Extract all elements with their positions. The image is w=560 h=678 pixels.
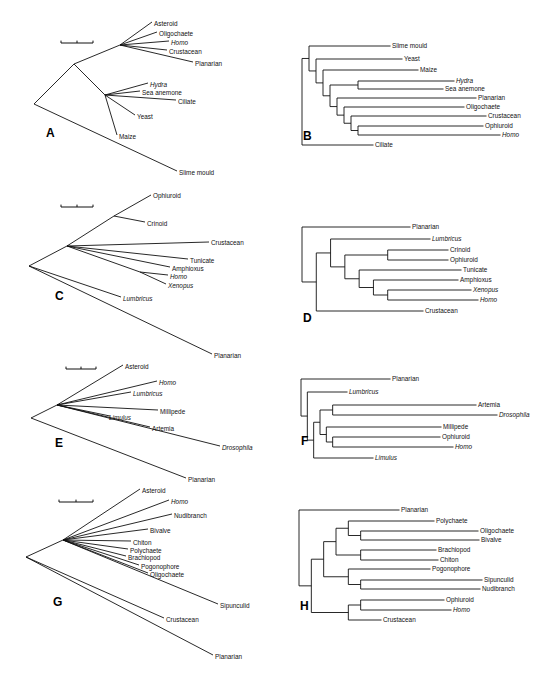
taxon-label: Yeast — [404, 55, 420, 62]
tree-branch — [63, 540, 126, 556]
tree-branch — [67, 246, 170, 267]
taxon-label: Homo — [480, 296, 497, 303]
tree-branch — [67, 216, 114, 246]
taxon-label: Millipede — [443, 423, 469, 431]
taxon-label: Amphioxus — [460, 276, 492, 284]
taxon-label: Millipede — [160, 408, 186, 416]
taxon-label: Artemia — [152, 425, 174, 432]
panel-c: OphiuroidCrinoidCrustaceanTunicateAmphio… — [0, 180, 280, 360]
taxon-label: Oligochaete — [480, 527, 515, 535]
panel-letter: B — [303, 129, 312, 143]
taxon-label: Lumbricus — [123, 295, 153, 302]
taxon-label: Crustacean — [383, 616, 416, 623]
taxon-label: Lumbricus — [349, 388, 379, 395]
taxon-label: Homo — [171, 39, 188, 46]
taxon-label: Planarian — [392, 375, 419, 382]
taxon-label: Chiton — [440, 556, 459, 563]
tree-branch — [120, 41, 169, 45]
taxon-label: Homo — [159, 379, 176, 386]
tree-branch — [34, 64, 74, 104]
tree-branch — [120, 22, 152, 45]
taxon-label: Crinoid — [450, 246, 471, 253]
tree-branch — [105, 95, 117, 135]
taxon-label: Pogonophore — [141, 563, 180, 571]
tree-branch — [63, 489, 140, 540]
taxon-label: Asteroid — [125, 363, 149, 370]
taxon-label: Chiton — [133, 539, 152, 546]
taxon-label: Xenopus — [167, 282, 194, 290]
taxon-label: Maize — [420, 66, 437, 73]
taxon-label: Homo — [453, 606, 470, 613]
taxon-label: Planarian — [195, 60, 222, 67]
taxon-label: Bivalve — [481, 536, 502, 543]
taxon-label: Nudibranch — [482, 585, 515, 592]
taxon-label: Hydra — [150, 81, 167, 89]
taxon-label: Planarian — [401, 506, 428, 513]
taxon-label: Limulus — [375, 454, 398, 461]
taxon-label: Tunicate — [190, 257, 215, 264]
tree-branches — [34, 22, 193, 171]
panel-letter: C — [55, 289, 64, 303]
taxon-label: Xenopus — [472, 286, 499, 294]
tree-branch — [114, 216, 145, 222]
tree-branches — [302, 46, 501, 145]
taxon-label: Drosophila — [499, 411, 530, 419]
taxon-label: Oligochaete — [159, 30, 194, 38]
tree-branch — [57, 405, 220, 446]
taxon-label: Ciliate — [178, 98, 196, 105]
tree-branch — [67, 242, 209, 246]
taxon-label: Limulus — [109, 414, 132, 421]
panel-h: PlanarianPolychaeteOligochaeteBivalveBra… — [280, 470, 560, 670]
panel-a: AsteroidOligochaeteHomoCrustaceanPlanari… — [0, 0, 280, 180]
panel-letter: G — [53, 595, 62, 609]
tree-branch — [74, 45, 120, 64]
taxon-label: Amphioxus — [172, 265, 204, 273]
taxon-label: Nudibranch — [174, 512, 207, 519]
tree-branch — [120, 45, 167, 50]
tree-branch — [26, 540, 63, 557]
panel-letter: A — [46, 126, 55, 140]
taxon-label: Sea anemone — [142, 89, 182, 96]
taxon-label: Ophiuroid — [153, 192, 181, 200]
taxon-label: Homo — [455, 443, 472, 450]
panel-d: PlanarianLumbricusCrinoidOphiuroidTunica… — [280, 180, 560, 360]
panel-g: AsteroidHomoNudibranchBivalveChitonPolyc… — [0, 470, 280, 670]
taxon-label: Hydra — [456, 77, 473, 85]
taxon-label: Planarian — [412, 223, 439, 230]
tree-branch — [105, 95, 135, 115]
taxon-label: Asteroid — [154, 20, 178, 27]
taxon-label: Oligochaete — [150, 571, 185, 579]
figure-caption — [0, 664, 560, 678]
scale-bar — [59, 500, 93, 502]
taxon-label: Polychaete — [436, 517, 468, 525]
taxon-label: Sea anemone — [445, 85, 485, 92]
taxon-label: Crustacean — [211, 239, 244, 246]
taxon-label: Homo — [171, 498, 188, 505]
taxon-label: Tunicate — [463, 266, 488, 273]
taxon-label: Drosophila — [222, 444, 253, 452]
taxon-label: Ophiuroid — [485, 122, 513, 130]
tree-branch — [63, 540, 131, 541]
taxon-label: Ophiuroid — [446, 596, 474, 604]
taxon-label: Sipunculid — [220, 602, 250, 610]
taxon-label: Ciliate — [375, 141, 393, 148]
taxon-label: Crustacean — [488, 112, 521, 119]
taxon-label: Bivalve — [150, 527, 171, 534]
tree-branch — [29, 266, 121, 297]
taxon-label: Sipunculid — [484, 576, 514, 584]
taxon-label: Brachiopod — [438, 546, 471, 554]
tree-branches — [31, 365, 220, 478]
taxon-label: Yeast — [137, 113, 153, 120]
taxon-label: Artemia — [478, 401, 500, 408]
taxon-label: Homo — [502, 131, 519, 138]
taxon-label: Pogonophore — [432, 565, 471, 573]
panel-letter: D — [303, 311, 312, 325]
taxon-label: Ophiuroid — [442, 433, 470, 441]
scale-bar — [61, 205, 93, 207]
tree-branch — [114, 195, 151, 216]
taxon-label: Brachiopod — [128, 554, 161, 562]
taxon-label: Crustacean — [425, 307, 458, 314]
tree-branch — [34, 104, 177, 171]
taxon-label: Slime mould — [179, 169, 215, 176]
tree-branch — [74, 64, 105, 95]
